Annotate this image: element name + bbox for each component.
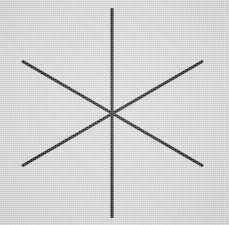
line-group	[22, 8, 203, 218]
figure-canvas	[0, 0, 229, 225]
asterisk-figure	[0, 0, 229, 225]
